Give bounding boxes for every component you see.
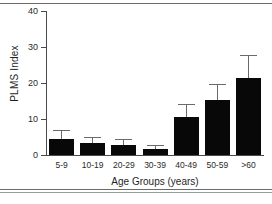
bar-20-29	[111, 145, 136, 155]
error-bar-cap-40-49	[178, 104, 195, 105]
bar-40-49	[174, 117, 199, 155]
error-bar-stem-30-39	[155, 146, 156, 150]
error-bar-cap-30-39	[147, 145, 164, 146]
y-tick-0	[41, 155, 46, 156]
bar-5-9	[49, 139, 74, 155]
y-axis-title: PLMS Index	[9, 14, 20, 134]
x-axis-title: Age Groups (years)	[46, 176, 264, 187]
error-bar-stem-5-9	[61, 131, 62, 139]
bar-50-59	[205, 100, 230, 155]
bar-group	[140, 11, 171, 155]
error-bar-stem-40-49	[186, 105, 187, 118]
error-bar-cap-20-29	[115, 139, 132, 140]
bar-10-19	[80, 143, 105, 155]
error-bar-cap-5-9	[53, 130, 70, 131]
bar-group	[77, 11, 108, 155]
page-rule-bottom	[0, 189, 272, 190]
bar-group	[46, 11, 77, 155]
bar-group	[108, 11, 139, 155]
error-bar-stem->60	[248, 56, 249, 78]
page-rule-bottom-secondary	[0, 192, 272, 193]
error-bar-stem-50-59	[217, 85, 218, 100]
page-rule-top	[0, 3, 272, 4]
bar-group	[202, 11, 233, 155]
error-bar-stem-20-29	[123, 140, 124, 145]
plot-area	[46, 11, 264, 155]
error-bar-cap-50-59	[209, 84, 226, 85]
error-bar-stem-10-19	[92, 138, 93, 143]
bar-group	[171, 11, 202, 155]
x-axis-line	[46, 155, 264, 156]
bar->60	[236, 78, 261, 155]
error-bar-cap->60	[240, 55, 257, 56]
bar-30-39	[143, 149, 168, 155]
bar-group	[233, 11, 264, 155]
x-tick-label->60: >60	[228, 160, 268, 170]
error-bar-cap-10-19	[84, 137, 101, 138]
figure-panel: 40 30 20 10 0 PLMS Index Age Groups (yea…	[0, 0, 272, 204]
y-tick-label-0: 0	[8, 151, 38, 160]
